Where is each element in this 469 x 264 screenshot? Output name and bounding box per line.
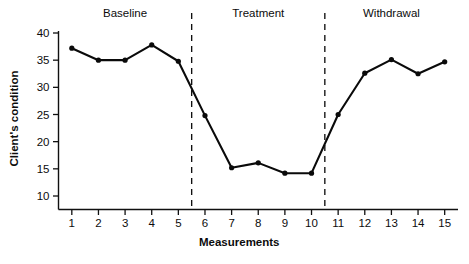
x-axis-title: Measurements: [199, 236, 280, 248]
y-axis-title: Client's condition: [8, 70, 20, 166]
x-tick-label: 6: [202, 217, 208, 229]
data-point-marker: [96, 58, 101, 63]
x-tick-label: 4: [149, 217, 156, 229]
phase-label-withdrawal: Withdrawal: [363, 7, 420, 19]
data-point-marker: [202, 113, 207, 118]
x-tick-label: 1: [69, 217, 75, 229]
data-point-marker: [415, 71, 420, 76]
data-series: [69, 42, 447, 175]
data-line: [72, 45, 445, 173]
data-point-marker: [176, 59, 181, 64]
data-point-marker: [336, 112, 341, 117]
y-tick-label: 20: [37, 136, 50, 148]
y-tick-label: 15: [37, 163, 50, 175]
data-point-marker: [256, 160, 261, 165]
data-point-marker: [309, 171, 314, 176]
x-tick-label: 7: [228, 217, 234, 229]
phase-label-treatment: Treatment: [232, 7, 285, 19]
x-tick-label: 10: [305, 217, 318, 229]
y-tick-label: 30: [37, 81, 50, 93]
phase-dividers: [192, 13, 325, 210]
chart-screenshot: Baseline Treatment Withdrawal 1015202530…: [0, 0, 469, 264]
y-tick-label: 10: [37, 190, 50, 202]
phase-label-baseline: Baseline: [103, 7, 147, 19]
y-axis: 10152025303540: [37, 27, 59, 210]
y-tick-label: 25: [37, 109, 50, 121]
single-subject-design-line-chart: Baseline Treatment Withdrawal 1015202530…: [0, 0, 469, 264]
data-point-marker: [442, 59, 447, 64]
data-point-marker: [149, 42, 154, 47]
x-tick-label: 8: [255, 217, 261, 229]
x-axis: 123456789101112131415: [59, 210, 459, 229]
x-tick-label: 9: [282, 217, 288, 229]
x-tick-label: 5: [175, 217, 181, 229]
x-tick-label: 11: [332, 217, 344, 229]
x-tick-label: 13: [385, 217, 398, 229]
data-point-marker: [122, 58, 127, 63]
data-point-marker: [229, 165, 234, 170]
y-tick-label: 35: [37, 54, 50, 66]
x-tick-label: 2: [95, 217, 101, 229]
data-point-marker: [282, 171, 287, 176]
data-point-marker: [362, 71, 367, 76]
data-point-marker: [69, 46, 74, 51]
phase-labels: Baseline Treatment Withdrawal: [103, 7, 420, 19]
x-tick-label: 3: [122, 217, 128, 229]
data-point-marker: [389, 57, 394, 62]
x-tick-label: 15: [438, 217, 451, 229]
x-tick-label: 14: [412, 217, 425, 229]
y-tick-label: 40: [37, 27, 50, 39]
x-tick-label: 12: [358, 217, 371, 229]
